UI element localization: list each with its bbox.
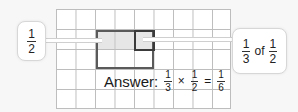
third-fraction: 1 3 — [242, 38, 251, 65]
third-of-half-callout: 1 3 of 1 2 — [232, 28, 287, 74]
equals-sign: = — [204, 74, 211, 88]
half-fraction: 1 2 — [27, 28, 36, 55]
left-connector — [44, 38, 102, 43]
of-word: of — [254, 44, 264, 58]
times-sign: × — [178, 74, 185, 88]
half-callout: 1 2 — [17, 21, 46, 61]
answer-equation: Answer: 1 3 × 1 2 = 1 6 — [104, 72, 225, 90]
fraction-one-sixth: 1 6 — [217, 70, 225, 93]
answer-label: Answer: — [104, 73, 158, 90]
fraction-one-third: 1 3 — [164, 70, 172, 93]
fraction-one-half: 1 2 — [191, 70, 199, 93]
half-fraction-right: 1 2 — [269, 38, 278, 65]
